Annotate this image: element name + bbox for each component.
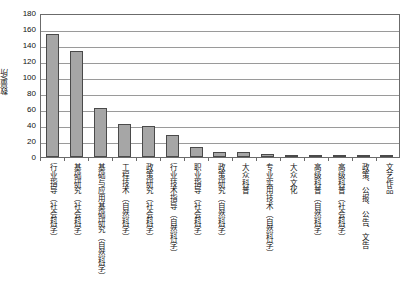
bar-slot bbox=[208, 15, 232, 157]
bar-slot bbox=[327, 15, 351, 157]
x-label-slot: 大众科普 bbox=[232, 163, 256, 283]
bar[interactable] bbox=[237, 152, 250, 157]
x-tick-label: 行业技术指导（自然科学） bbox=[168, 163, 176, 257]
x-tick-slot bbox=[280, 158, 304, 162]
x-tick-label: 高级科普（自然科学） bbox=[312, 163, 320, 241]
x-tick-label: 政策研究（社会科学） bbox=[144, 163, 152, 241]
x-tick-label: 政策、公报、公告、文告 bbox=[360, 163, 368, 249]
x-label-slot: 政策研究（社会科学） bbox=[136, 163, 160, 283]
x-label-slot: 大众文化 bbox=[280, 163, 304, 283]
y-tick-label: 120 bbox=[23, 58, 36, 66]
x-tick-slot bbox=[64, 158, 88, 162]
bar[interactable] bbox=[142, 126, 155, 157]
y-tick-label: 80 bbox=[27, 90, 36, 98]
x-tick-mark bbox=[136, 158, 137, 161]
bar-slot bbox=[375, 15, 399, 157]
x-tick-slot bbox=[352, 158, 376, 162]
x-tick-label: 大众文化 bbox=[288, 163, 296, 194]
bar-slot bbox=[160, 15, 184, 157]
x-label-slot: 职业指导（社会科学） bbox=[184, 163, 208, 283]
y-axis-title: 数量/所 bbox=[0, 52, 14, 112]
y-tick-label: 40 bbox=[27, 122, 36, 130]
x-tick-label: 工程技术（自然科学） bbox=[120, 163, 128, 241]
bar-slot bbox=[65, 15, 89, 157]
x-label-slot: 基础与应用基础研究（自然科学） bbox=[88, 163, 112, 283]
x-tick-slot bbox=[88, 158, 112, 162]
bar-slot bbox=[256, 15, 280, 157]
x-tick-slot bbox=[232, 158, 256, 162]
bar-slot bbox=[351, 15, 375, 157]
x-tick-mark bbox=[88, 158, 89, 161]
x-tick-label: 基础研究（社会科学） bbox=[72, 163, 80, 241]
y-tick-label: 0 bbox=[32, 154, 36, 162]
x-tick-mark bbox=[352, 158, 353, 161]
x-tick-mark bbox=[232, 158, 233, 161]
bar[interactable] bbox=[70, 51, 83, 157]
x-tick-label: 基础与应用基础研究（自然科学） bbox=[96, 163, 104, 280]
bar[interactable] bbox=[46, 34, 59, 157]
x-tick-slot bbox=[40, 158, 64, 162]
bar[interactable] bbox=[94, 108, 107, 157]
x-tick-mark bbox=[112, 158, 113, 161]
bar[interactable] bbox=[357, 155, 370, 157]
bar-slot bbox=[232, 15, 256, 157]
x-tick-slot bbox=[160, 158, 184, 162]
bar-slot bbox=[280, 15, 304, 157]
x-tick-mark bbox=[184, 158, 185, 161]
x-tick-slot bbox=[304, 158, 328, 162]
bar-slot bbox=[89, 15, 113, 157]
bar-chart: 数量/所 180160140120100806040200 行业指导（社会科学）… bbox=[0, 0, 408, 287]
x-tick-mark bbox=[160, 158, 161, 161]
x-tick-label: 政策研究（自然科学） bbox=[216, 163, 224, 241]
x-tick-label: 高级科普（社会科学） bbox=[336, 163, 344, 241]
x-tick-slot bbox=[256, 158, 280, 162]
bar[interactable] bbox=[309, 155, 322, 157]
bar-slot bbox=[303, 15, 327, 157]
x-label-slot: 高级科普（自然科学） bbox=[304, 163, 328, 283]
x-label-slot: 高级科普（社会科学） bbox=[328, 163, 352, 283]
x-tick-label: 文艺作品 bbox=[384, 163, 392, 194]
x-tick-label: 职业指导（社会科学） bbox=[192, 163, 200, 241]
x-tick-mark bbox=[280, 158, 281, 161]
x-tick-mark bbox=[64, 158, 65, 161]
bar[interactable] bbox=[166, 135, 179, 157]
y-tick-label: 180 bbox=[23, 10, 36, 18]
y-tick-label: 60 bbox=[27, 106, 36, 114]
x-tick-slot bbox=[328, 158, 352, 162]
bar[interactable] bbox=[190, 147, 203, 157]
x-tick-mark bbox=[304, 158, 305, 161]
y-axis-tick-labels: 180160140120100806040200 bbox=[14, 14, 38, 158]
bar[interactable] bbox=[261, 154, 274, 157]
x-label-slot: 政策研究（自然科学） bbox=[208, 163, 232, 283]
y-tick-label: 160 bbox=[23, 26, 36, 34]
x-tick-mark bbox=[376, 158, 377, 161]
x-label-slot: 基础研究（社会科学） bbox=[64, 163, 88, 283]
x-axis-tick-marks bbox=[40, 158, 400, 162]
x-tick-mark bbox=[208, 158, 209, 161]
x-tick-mark bbox=[328, 158, 329, 161]
y-tick-label: 100 bbox=[23, 74, 36, 82]
plot-area bbox=[40, 14, 400, 158]
bar-slot bbox=[41, 15, 65, 157]
x-label-slot: 工程技术（自然科学） bbox=[112, 163, 136, 283]
x-label-slot: 文艺作品 bbox=[376, 163, 400, 283]
bar[interactable] bbox=[380, 155, 393, 157]
x-label-slot: 专业实用技术（自然科学） bbox=[256, 163, 280, 283]
bar[interactable] bbox=[333, 155, 346, 157]
x-tick-label: 行业指导（社会科学） bbox=[48, 163, 56, 241]
bar-slot bbox=[184, 15, 208, 157]
x-tick-slot bbox=[376, 158, 400, 162]
bar[interactable] bbox=[213, 152, 226, 157]
x-tick-slot bbox=[112, 158, 136, 162]
bar[interactable] bbox=[118, 124, 131, 157]
y-tick-label: 140 bbox=[23, 42, 36, 50]
y-tick-label: 20 bbox=[27, 138, 36, 146]
bar[interactable] bbox=[285, 155, 298, 157]
x-tick-slot bbox=[136, 158, 160, 162]
x-tick-mark bbox=[40, 158, 41, 161]
x-tick-slot bbox=[208, 158, 232, 162]
x-tick-label: 专业实用技术（自然科学） bbox=[264, 163, 272, 257]
x-tick-slot bbox=[184, 158, 208, 162]
bar-slot bbox=[113, 15, 137, 157]
x-label-slot: 政策、公报、公告、文告 bbox=[352, 163, 376, 283]
